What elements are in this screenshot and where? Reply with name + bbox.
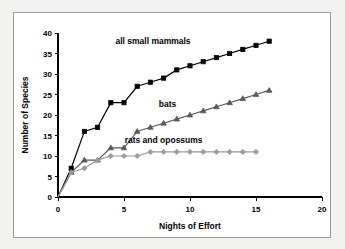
- data-point: [175, 68, 179, 72]
- x-tick-label: 10: [186, 205, 195, 214]
- y-tick-label: 20: [43, 111, 52, 120]
- data-point: [148, 80, 152, 84]
- data-point: [253, 149, 258, 154]
- data-point: [267, 39, 271, 43]
- data-point: [108, 153, 113, 158]
- data-point: [228, 51, 232, 55]
- data-point: [266, 88, 272, 93]
- series-rats-and-opossums: rats and opossums: [58, 135, 259, 197]
- data-point: [109, 101, 113, 105]
- data-point: [174, 149, 179, 154]
- data-point: [240, 149, 245, 154]
- x-tick-label: 5: [122, 205, 127, 214]
- x-tick-label: 15: [252, 205, 261, 214]
- data-point: [188, 64, 192, 68]
- data-point: [241, 47, 245, 51]
- data-point: [227, 149, 232, 154]
- data-point: [82, 129, 86, 133]
- data-point: [135, 153, 140, 158]
- y-tick-label: 25: [43, 91, 52, 100]
- data-point: [214, 56, 218, 60]
- data-point: [96, 125, 100, 129]
- data-point: [148, 149, 153, 154]
- species-accumulation-chart: 051015202530354005101520Nights of Effort…: [14, 13, 330, 237]
- series-label-bats: bats: [159, 99, 177, 109]
- y-tick-label: 40: [43, 29, 52, 38]
- y-tick-label: 0: [48, 193, 53, 202]
- y-axis-title: Number of Species: [20, 76, 30, 153]
- series-line: [58, 152, 256, 197]
- series-label-all-small-mammals: all small mammals: [115, 36, 190, 46]
- y-tick-label: 10: [43, 152, 52, 161]
- y-tick-label: 35: [43, 50, 52, 59]
- data-point: [187, 149, 192, 154]
- chart-frame: 051015202530354005101520Nights of Effort…: [13, 12, 331, 238]
- data-point: [122, 101, 126, 105]
- x-tick-label: 20: [318, 205, 327, 214]
- data-point: [214, 149, 219, 154]
- x-axis-title: Nights of Effort: [159, 221, 221, 231]
- data-point: [254, 43, 258, 47]
- data-point: [135, 84, 139, 88]
- figure-root: 051015202530354005101520Nights of Effort…: [0, 0, 345, 249]
- data-point: [201, 60, 205, 64]
- y-tick-label: 5: [48, 173, 53, 182]
- data-point: [161, 149, 166, 154]
- data-point: [121, 153, 126, 158]
- data-point: [201, 149, 206, 154]
- y-tick-label: 30: [43, 70, 52, 79]
- series-label-rats-and-opossums: rats and opossums: [125, 135, 203, 145]
- series-all-small-mammals: all small mammals: [58, 36, 271, 197]
- y-tick-label: 15: [43, 132, 52, 141]
- series-line: [58, 41, 269, 197]
- x-tick-label: 0: [56, 205, 61, 214]
- data-point: [162, 76, 166, 80]
